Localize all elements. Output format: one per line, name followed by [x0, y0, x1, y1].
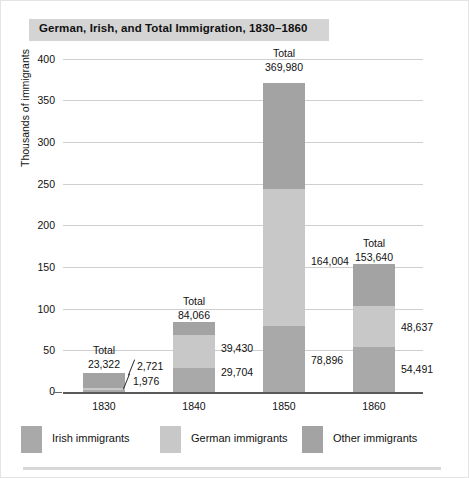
chart-legend: Irish immigrants German immigrants Other…	[21, 425, 451, 457]
gridline-400	[63, 59, 423, 60]
xtick-label-1840: 1840	[159, 400, 229, 412]
ytick-label-200: 200	[15, 219, 55, 231]
xtick-label-1850: 1850	[249, 400, 319, 412]
total-value-1850: 369,980	[239, 61, 329, 73]
value-german-1830: 2,721	[137, 360, 163, 372]
legend-swatch-german-icon	[160, 426, 181, 453]
value-german-1840: 39,430	[221, 342, 253, 354]
legend-label-irish: Irish immigrants	[52, 432, 130, 444]
ytick-label-150: 150	[15, 261, 55, 273]
bar-segment-other-1840	[173, 322, 215, 335]
bar-1860[interactable]: 1860	[353, 264, 395, 392]
bar-segment-german-1840	[173, 335, 215, 368]
ytick-label-0: 0	[15, 385, 55, 397]
legend-label-german: German immigrants	[191, 432, 288, 444]
legend-swatch-irish-icon	[21, 426, 42, 453]
bar-1830[interactable]: 1830	[83, 373, 125, 392]
legend-label-other: Other immigrants	[333, 432, 417, 444]
total-word-1850: Total	[239, 47, 329, 59]
bar-segment-other-1860	[353, 264, 395, 306]
gridline-300	[63, 142, 423, 143]
bar-1840[interactable]: 1840	[173, 322, 215, 392]
gridline-200	[63, 225, 423, 226]
total-value-1830: 23,322	[59, 358, 149, 370]
chart-title: German, Irish, and Total Immigration, 18…	[39, 22, 339, 34]
total-value-1860: 153,640	[329, 251, 419, 263]
bar-1850[interactable]: 1850	[263, 83, 305, 392]
value-irish-1850: 78,896	[311, 354, 343, 366]
bar-segment-irish-1860	[353, 347, 395, 392]
bar-segment-german-1860	[353, 306, 395, 347]
plot-area: 400 350 300 250 200 150 100 50 0 Thousan…	[63, 59, 423, 394]
total-word-1830: Total	[59, 344, 149, 356]
chart-figure: German, Irish, and Total Immigration, 18…	[0, 0, 469, 478]
value-irish-1830: 1,976	[133, 375, 159, 387]
ytick-label-100: 100	[15, 303, 55, 315]
bar-segment-other-1850	[263, 83, 305, 189]
gridline-250	[63, 184, 423, 185]
bar-segment-other-1830	[83, 373, 125, 388]
bottom-rule	[23, 467, 441, 470]
gridline-350	[63, 100, 423, 101]
total-word-1840: Total	[149, 295, 239, 307]
x-axis-line	[63, 392, 423, 394]
bar-segment-german-1850	[263, 189, 305, 326]
ytick-label-250: 250	[15, 178, 55, 190]
bar-segment-irish-1850	[263, 326, 305, 392]
xtick-label-1830: 1830	[69, 400, 139, 412]
ytick-label-50: 50	[15, 344, 55, 356]
value-german-1860: 48,637	[401, 321, 433, 333]
value-irish-1840: 29,704	[221, 366, 253, 378]
bar-segment-irish-1840	[173, 368, 215, 392]
xtick-label-1860: 1860	[339, 400, 409, 412]
legend-swatch-other-icon	[302, 426, 323, 453]
value-irish-1860: 54,491	[401, 363, 433, 375]
total-word-1860: Total	[329, 237, 419, 249]
total-value-1840: 84,066	[149, 309, 239, 321]
y-axis-label: Thousands of immigrants	[19, 49, 31, 167]
ytick-mark-0	[53, 392, 62, 393]
